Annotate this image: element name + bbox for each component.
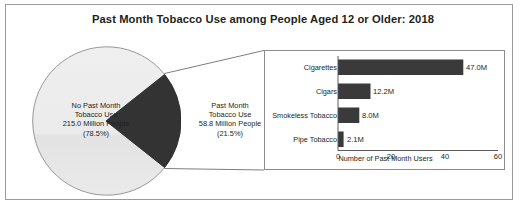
x-axis-title: Number of Past Month Users (265, 154, 506, 163)
pie-label-no-line3: 215.0 Million People (36, 119, 156, 128)
pie-label-no-line4: (78.5%) (36, 129, 156, 138)
bar-pipe-tobacco (338, 132, 344, 148)
bar-value-cigars: 12.2M (373, 87, 394, 96)
bar-category-label-smokeless-tobacco: Smokeless Tobacco (272, 111, 337, 120)
pie-label-yes-line4: (21.5%) (186, 129, 274, 138)
pie-label-yes-line1: Past Month (186, 101, 274, 110)
bar-cigars (338, 84, 371, 100)
pie-label-no-line1: No Past Month (36, 101, 156, 110)
pie-label-past-month-use: Past Month Tobacco Use 58.8 Million Peop… (186, 101, 274, 138)
pie-label-yes-line3: 58.8 Million People (186, 119, 274, 128)
bar-chart-panel: Cigarettes Cigars Smokeless Tobacco Pipe… (264, 50, 505, 170)
figure-root: Past Month Tobacco Use among People Aged… (0, 0, 526, 211)
bar-cigarettes (338, 60, 463, 76)
bar-value-cigarettes: 47.0M (466, 63, 487, 72)
pie-label-no-line2: Tobacco Use (36, 110, 156, 119)
page-title: Past Month Tobacco Use among People Aged… (0, 13, 526, 25)
bar-category-label-cigars: Cigars (316, 87, 337, 96)
bar-value-smokeless-tobacco: 8.0M (362, 111, 379, 120)
bar-smokeless-tobacco (338, 108, 359, 124)
bar-category-label-pipe-tobacco: Pipe Tobacco (293, 135, 337, 144)
pie-label-yes-line2: Tobacco Use (186, 110, 274, 119)
pie-label-no-past-month-use: No Past Month Tobacco Use 215.0 Million … (36, 101, 156, 138)
bar-value-pipe-tobacco: 2.1M (347, 135, 364, 144)
bar-category-label-cigarettes: Cigarettes (304, 63, 337, 72)
